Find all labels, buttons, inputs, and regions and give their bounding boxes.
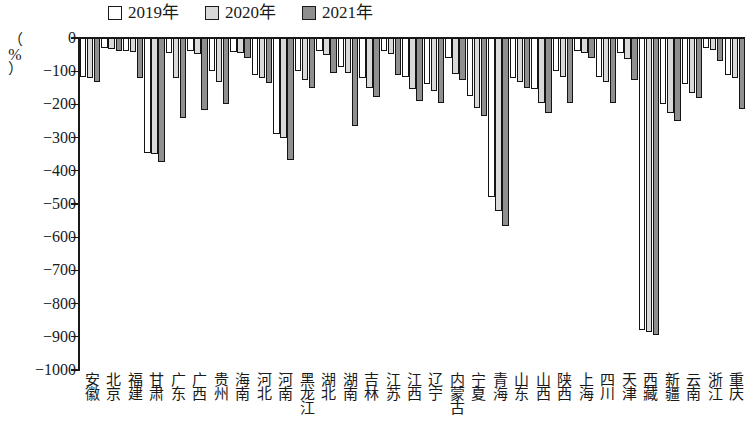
legend-label-2020: 2020年 [225, 4, 276, 21]
bar [252, 38, 258, 75]
x-tick-label: 青海 [491, 372, 506, 400]
chart-root: 2019年 2020年 2021年 （ % ） 0−100−200−300−40… [0, 0, 745, 448]
bar [517, 38, 523, 82]
bar [395, 38, 401, 75]
bar-group [510, 38, 531, 370]
bar-group [639, 38, 660, 370]
bar [510, 38, 516, 78]
y-tick-mark [71, 336, 78, 337]
bar [273, 38, 279, 134]
bar [338, 38, 344, 67]
bar [553, 38, 559, 71]
bar [388, 38, 394, 54]
x-tick-label: 山东 [513, 372, 528, 400]
x-tick-label: 新疆 [663, 372, 678, 400]
bar-group [252, 38, 273, 370]
x-tick-label: 云南 [685, 372, 700, 400]
bar [431, 38, 437, 91]
bar [674, 38, 680, 121]
x-tick-label: 贵州 [212, 372, 227, 400]
bar [416, 38, 422, 101]
x-tick-label: 江西 [406, 372, 421, 400]
bar-group [381, 38, 402, 370]
bar [223, 38, 229, 104]
bar-group [316, 38, 337, 370]
bar-group [80, 38, 101, 370]
y-tick-mark [71, 369, 78, 370]
bar [373, 38, 379, 97]
legend-item-2019: 2019年 [108, 4, 179, 21]
bar [739, 38, 745, 109]
bar [123, 38, 129, 51]
legend-swatch-2021-icon [302, 6, 316, 20]
plot-area [79, 38, 745, 370]
bar [617, 38, 623, 53]
bar-group [617, 38, 638, 370]
bar [130, 38, 136, 52]
bar [538, 38, 544, 103]
x-tick-label: 湖南 [341, 372, 356, 400]
bar [359, 38, 365, 78]
bar [80, 38, 86, 77]
bar-group [123, 38, 144, 370]
bar [216, 38, 222, 82]
legend-swatch-2020-icon [205, 6, 219, 20]
bar [180, 38, 186, 118]
bar [574, 38, 580, 51]
x-tick-label: 海南 [234, 372, 249, 400]
x-tick-label: 河南 [277, 372, 292, 400]
bar-group [402, 38, 423, 370]
bar [280, 38, 286, 138]
x-tick-label: 重庆 [728, 372, 743, 400]
y-tick-mark [71, 104, 78, 105]
bar [345, 38, 351, 73]
y-tick-mark [71, 137, 78, 138]
bar [101, 38, 107, 48]
bar [682, 38, 688, 84]
bar [481, 38, 487, 116]
y-tick-label: −1000 [35, 362, 76, 378]
bar-group [295, 38, 316, 370]
bar [660, 38, 666, 104]
y-tick-mark [71, 37, 78, 38]
bar-group [187, 38, 208, 370]
bar [287, 38, 293, 160]
bar-group [424, 38, 445, 370]
bar [531, 38, 537, 89]
bar-group [660, 38, 681, 370]
bar [588, 38, 594, 58]
x-tick-label: 山西 [534, 372, 549, 400]
bar-group [574, 38, 595, 370]
bar [309, 38, 315, 88]
bar [696, 38, 702, 98]
x-tick-label: 江苏 [384, 372, 399, 400]
bar-group [338, 38, 359, 370]
bar [624, 38, 630, 59]
bar [732, 38, 738, 78]
bar-group [101, 38, 122, 370]
bar [646, 38, 652, 332]
bar [639, 38, 645, 330]
x-tick-label: 宁夏 [470, 372, 485, 400]
bar [244, 38, 250, 58]
bar [158, 38, 164, 162]
x-tick-label: 四川 [599, 372, 614, 400]
bar [144, 38, 150, 153]
x-tick-label: 吉林 [363, 372, 378, 400]
bar [488, 38, 494, 197]
bar [603, 38, 609, 82]
bar [667, 38, 673, 113]
y-tick-mark [71, 170, 78, 171]
x-tick-label: 天津 [620, 372, 635, 400]
bar [323, 38, 329, 55]
bar [381, 38, 387, 51]
bar-group [166, 38, 187, 370]
bar [631, 38, 637, 80]
bar [717, 38, 723, 61]
bar [409, 38, 415, 89]
x-tick-label: 上海 [577, 372, 592, 400]
bar [689, 38, 695, 93]
bar [474, 38, 480, 108]
bar [502, 38, 508, 226]
bar-group [682, 38, 703, 370]
